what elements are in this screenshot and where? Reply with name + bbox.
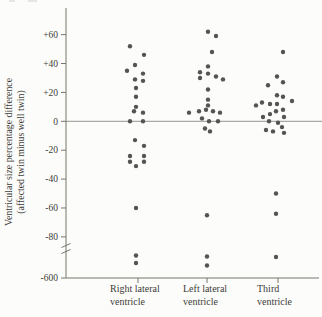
data-point [141, 119, 145, 123]
data-point [198, 76, 202, 80]
data-point [275, 93, 279, 97]
data-point [141, 110, 145, 114]
data-point [198, 70, 202, 74]
data-point [133, 138, 137, 142]
data-point [266, 83, 270, 87]
data-point [254, 103, 258, 107]
data-point [210, 50, 214, 54]
data-point [206, 103, 210, 107]
data-point [133, 77, 137, 81]
data-point [206, 64, 210, 68]
y-tick-label: -60 [45, 203, 58, 213]
data-point [268, 102, 272, 106]
data-point [134, 253, 138, 257]
data-point [206, 71, 210, 75]
data-point [260, 100, 264, 104]
data-point [282, 131, 286, 135]
y-tick-label: -600 [41, 273, 59, 283]
data-point [134, 95, 138, 99]
data-point [142, 53, 146, 57]
data-point [268, 112, 272, 116]
data-point [128, 154, 132, 158]
category-label: Third [257, 283, 279, 294]
data-point [271, 129, 275, 133]
y-tick-label: 0 [53, 117, 58, 127]
data-point [133, 63, 137, 67]
y-axis-title: (affected twin minus well twin) [15, 90, 27, 213]
data-point [214, 34, 218, 38]
data-point [134, 206, 138, 210]
data-point [211, 109, 215, 113]
data-point [281, 50, 285, 54]
data-point [204, 108, 208, 112]
data-point [206, 97, 210, 101]
data-point [274, 191, 278, 195]
data-point [275, 74, 279, 78]
data-point [134, 261, 138, 265]
data-point [134, 105, 138, 109]
y-tick-label: +60 [43, 30, 58, 40]
data-point [142, 154, 146, 158]
data-point [274, 212, 278, 216]
chart-canvas: +60+40+200-20-40-60-80-600Right lateralv… [0, 0, 322, 317]
y-axis-title: Ventricular size percentage difference [3, 77, 14, 226]
data-point [261, 115, 265, 119]
data-point [187, 110, 191, 114]
data-point [216, 119, 220, 123]
data-point [290, 99, 294, 103]
data-point [221, 77, 225, 81]
data-point [281, 80, 285, 84]
data-point [128, 160, 132, 164]
data-point [274, 109, 278, 113]
data-point [205, 254, 209, 258]
data-point [142, 160, 146, 164]
data-point [128, 44, 132, 48]
data-point [134, 86, 138, 90]
data-point [282, 115, 286, 119]
data-point [206, 87, 210, 91]
data-point [141, 79, 145, 83]
category-label: ventricle [257, 296, 293, 307]
category-label: ventricle [110, 296, 146, 307]
scan-artifact [28, 0, 37, 2]
data-point [205, 263, 209, 267]
y-tick-label: -80 [45, 232, 58, 242]
y-tick-label: +40 [43, 59, 58, 69]
data-point [274, 255, 278, 259]
scan-artifact [9, 0, 15, 2]
data-point [214, 74, 218, 78]
data-point [281, 108, 285, 112]
data-point [267, 119, 271, 123]
data-point [132, 109, 136, 113]
data-point [207, 119, 211, 123]
data-point [203, 126, 207, 130]
data-point [141, 71, 145, 75]
data-point [276, 121, 280, 125]
data-point [206, 30, 210, 34]
data-point [197, 109, 201, 113]
data-point [264, 128, 268, 132]
data-point [142, 144, 146, 148]
data-point [280, 125, 284, 129]
category-label: ventricle [183, 296, 219, 307]
data-point [134, 164, 138, 168]
y-tick-label: -40 [45, 174, 58, 184]
data-point [281, 95, 285, 99]
data-point [128, 119, 132, 123]
scatter-plot-figure: +60+40+200-20-40-60-80-600Right lateralv… [0, 0, 322, 317]
y-tick-label: +20 [43, 88, 58, 98]
data-point [205, 213, 209, 217]
data-point [200, 116, 204, 120]
category-label: Left lateral [183, 283, 227, 294]
data-point [125, 69, 129, 73]
data-point [218, 110, 222, 114]
data-point [208, 129, 212, 133]
y-tick-label: -20 [45, 145, 58, 155]
data-point [275, 102, 279, 106]
category-label: Right lateral [110, 283, 160, 294]
